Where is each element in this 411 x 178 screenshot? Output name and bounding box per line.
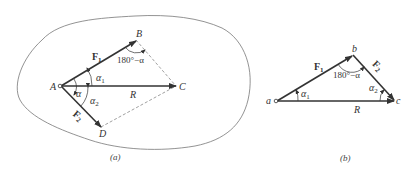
label-f1-b: F1 bbox=[314, 61, 324, 74]
label-alpha2-a: α2 bbox=[90, 95, 99, 108]
angle-alpha2-arc bbox=[81, 87, 88, 106]
figure-b: a b c F1 F2 R α1 α2 180°−α (b) bbox=[266, 43, 401, 163]
angle-alpha1-arc-b bbox=[296, 90, 298, 101]
point-a-origin-b bbox=[274, 99, 278, 103]
label-point-a: A bbox=[49, 81, 57, 92]
label-supplement-a: 180°−α bbox=[117, 55, 144, 65]
dashed-dc bbox=[101, 86, 176, 127]
label-alpha2-b: α2 bbox=[369, 82, 378, 95]
angle-alpha2-arc-b bbox=[380, 90, 384, 101]
label-point-a-b: a bbox=[266, 95, 271, 106]
label-alpha1-b: α1 bbox=[301, 88, 310, 101]
label-f1-a: F1 bbox=[92, 51, 102, 64]
label-point-c-b: c bbox=[396, 95, 401, 106]
label-alpha1-a: α1 bbox=[96, 72, 105, 85]
label-f2-a: F2 bbox=[70, 108, 86, 124]
label-alpha-a: α bbox=[76, 88, 82, 99]
label-supplement-b: 180°−α bbox=[333, 70, 360, 80]
label-point-d: D bbox=[98, 128, 107, 139]
angle-supplement-arc-a bbox=[125, 47, 145, 53]
figure-a: A B C D F1 F2 R α α1 α2 180°−α (a) bbox=[17, 16, 250, 163]
caption-a: (a) bbox=[110, 152, 121, 162]
caption-b: (b) bbox=[340, 153, 351, 163]
label-point-c: C bbox=[179, 81, 186, 92]
label-f2-b: F2 bbox=[369, 58, 385, 74]
label-point-b-b: b bbox=[352, 43, 357, 54]
label-r-b: R bbox=[353, 104, 360, 115]
label-r-a: R bbox=[129, 89, 136, 100]
force-parallelogram-diagram: A B C D F1 F2 R α α1 α2 180°−α (a) a b c… bbox=[0, 0, 411, 178]
point-a-origin bbox=[58, 84, 62, 88]
label-point-b: B bbox=[136, 28, 142, 39]
